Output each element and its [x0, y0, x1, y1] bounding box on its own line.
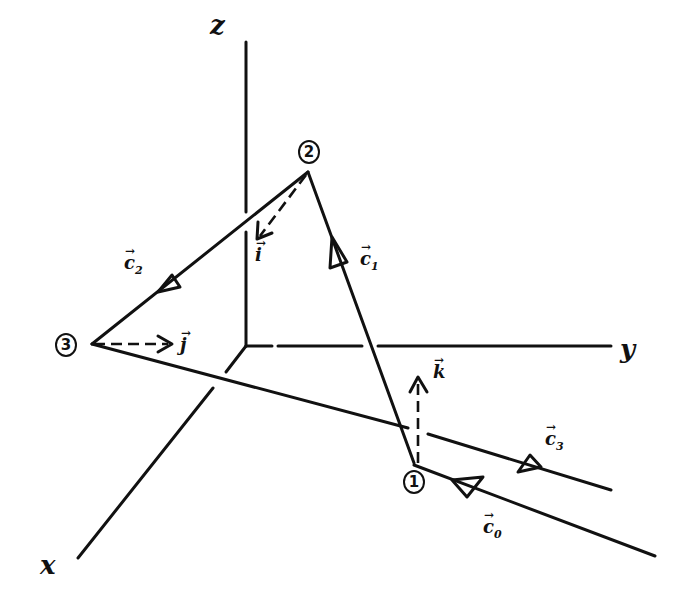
c3-subscript: 3 [556, 440, 564, 453]
point-1-label: 1 [403, 470, 425, 494]
segment-2-1 [308, 172, 414, 463]
i-arrow-icon: → [256, 237, 266, 249]
point-2-label: 2 [298, 140, 320, 164]
c1-label: →c1 [360, 250, 379, 272]
c0-arrowhead-icon [452, 477, 483, 497]
segment-1-c0 [414, 465, 655, 556]
k-label: →k [433, 363, 445, 381]
c0-label: →c0 [483, 518, 502, 540]
y-axis-label: y [620, 336, 635, 362]
c1-subscript: 1 [371, 260, 379, 273]
c2-subscript: 2 [135, 264, 143, 277]
j-label: →j [180, 336, 187, 354]
c2-label: →c2 [124, 254, 143, 276]
c3-arrow-icon: → [546, 421, 556, 433]
c0-arrow-icon: → [484, 509, 494, 521]
c1-arrow-icon: → [361, 241, 371, 253]
diagram-canvas [0, 0, 685, 608]
x-axis-label: x [40, 552, 56, 578]
c3-label: →c3 [545, 430, 564, 452]
k-arrow-icon: → [434, 354, 444, 366]
z-axis-label: z [210, 12, 225, 38]
c2-arrow-icon: → [125, 245, 135, 257]
j-arrow-icon: → [181, 327, 191, 339]
c0-subscript: 0 [494, 528, 502, 541]
point-3-label: 3 [55, 333, 77, 357]
i-label: →i [255, 246, 262, 264]
